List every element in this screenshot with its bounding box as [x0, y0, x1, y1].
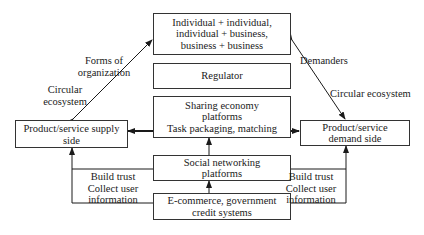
- box-text: Task packaging, matching: [167, 123, 277, 135]
- arrow-supply-forms: [73, 40, 152, 119]
- box-text: Regulator: [201, 70, 242, 82]
- build-trust-right-label: Build trust Collect user information: [278, 171, 344, 206]
- box-text: Product/service supply: [24, 123, 120, 135]
- forms-of-organization-box: Individual + individual, individual + bu…: [153, 13, 291, 55]
- box-text: Individual + individual,: [172, 17, 272, 29]
- circular-ecosystem-right-label: Circular ecosystem: [330, 88, 411, 100]
- demand-side-box: Product/service demand side: [300, 120, 410, 146]
- box-text: credit systems: [167, 207, 276, 219]
- demanders-label: Demanders: [300, 55, 348, 67]
- supply-side-box: Product/service supply side: [15, 120, 128, 148]
- box-text: platforms: [184, 168, 261, 180]
- box-text: E-commerce, government: [167, 195, 276, 207]
- ecommerce-credit-box: E-commerce, government credit systems: [153, 193, 291, 220]
- forms-of-organization-label: Forms of organization: [74, 55, 134, 78]
- box-text: demand side: [322, 133, 387, 145]
- arrow-forms-demand: [292, 40, 345, 119]
- box-text: individual + business,: [172, 28, 272, 40]
- build-trust-left-label: Build trust Collect user information: [80, 171, 146, 206]
- box-text: Social networking: [184, 157, 261, 169]
- box-text: business + business: [172, 40, 272, 52]
- box-text: side: [24, 135, 120, 147]
- box-text: Sharing economy: [167, 100, 277, 112]
- sharing-economy-box: Sharing economy platforms Task packaging…: [153, 96, 291, 138]
- social-networking-box: Social networking platforms: [153, 155, 291, 181]
- circular-ecosystem-left-label: Circular ecosystem: [40, 84, 90, 107]
- regulator-box: Regulator: [153, 63, 291, 89]
- box-text: platforms: [167, 111, 277, 123]
- box-text: Product/service: [322, 122, 387, 134]
